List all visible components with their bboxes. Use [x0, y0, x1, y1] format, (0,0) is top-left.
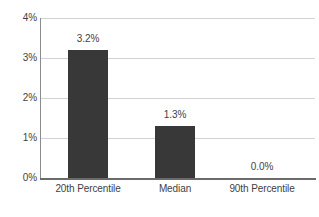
y-tick-label-1: 1% [3, 133, 37, 143]
x-tick-label-90th-percentile: 90th Percentile [212, 183, 312, 195]
y-tick-label-3: 3% [3, 53, 37, 63]
y-axis-line [40, 18, 41, 179]
bar-median [155, 126, 195, 178]
x-tick-label-20th-percentile: 20th Percentile [38, 183, 138, 195]
bar-chart: 4% 3% 2% 1% 0% 3.2% 1.3% 0.0% 20th Perce… [0, 0, 319, 217]
value-label-median: 1.3% [135, 109, 215, 120]
bar-20th-percentile [68, 50, 108, 178]
y-axis-tick-labels: 4% 3% 2% 1% 0% [0, 0, 37, 217]
x-tick-label-median: Median [125, 183, 225, 195]
y-tick-label-2: 2% [3, 93, 37, 103]
y-tick-label-0: 0% [3, 173, 37, 183]
y-tick-label-4: 4% [3, 13, 37, 23]
value-label-20th-percentile: 3.2% [48, 33, 128, 44]
x-axis-line [40, 178, 316, 180]
gridline-4pct [40, 18, 315, 19]
value-label-90th-percentile: 0.0% [222, 161, 302, 172]
